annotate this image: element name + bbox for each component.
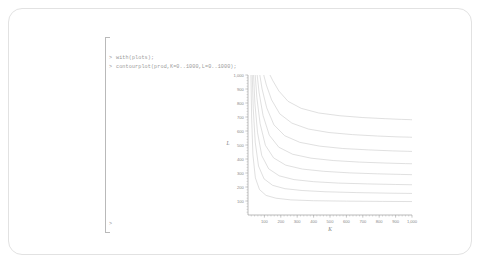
x-tick-label: 400 — [310, 219, 318, 224]
contour-plot-svg: 1002003004005006007008009001,00010020030… — [222, 69, 418, 241]
command-text-1: with(plots); — [116, 55, 154, 61]
x-axis-label: K — [327, 226, 332, 232]
command-text-2: contourplot(prod,K=0..1000,L=0..1000); — [116, 64, 237, 70]
worksheet-page: >with(plots); >contourplot(prod,K=0..100… — [8, 8, 472, 255]
y-tick-label: 800 — [237, 101, 245, 106]
x-tick-label: 900 — [392, 219, 400, 224]
contour-curve — [260, 75, 412, 151]
input-line-3[interactable]: > — [109, 221, 116, 228]
y-tick-label: 300 — [237, 171, 245, 176]
contour-curve — [255, 75, 412, 175]
y-axis-label: L — [226, 140, 230, 146]
execution-group[interactable]: >with(plots); >contourplot(prod,K=0..100… — [97, 31, 427, 243]
x-tick-label: 200 — [277, 219, 285, 224]
x-tick-label: 700 — [359, 219, 367, 224]
y-tick-label: 500 — [237, 143, 245, 148]
x-tick-label: 600 — [343, 219, 351, 224]
y-tick-label: 1,000 — [234, 73, 245, 78]
contour-curves — [251, 75, 412, 202]
prompt-marker-1: > — [109, 55, 116, 62]
x-tick-label: 500 — [327, 219, 335, 224]
prompt-marker-3: > — [109, 221, 116, 228]
contour-plot-output: 1002003004005006007008009001,00010020030… — [222, 69, 418, 241]
execution-group-bracket-top — [105, 37, 110, 38]
x-tick-label: 300 — [294, 219, 302, 224]
y-tick-label: 200 — [237, 185, 245, 190]
y-tick-label: 700 — [237, 115, 245, 120]
y-tick-label: 600 — [237, 129, 245, 134]
y-tick-label: 100 — [237, 199, 245, 204]
contour-curve — [264, 75, 412, 137]
x-tick-label: 1,000 — [407, 219, 418, 224]
contour-curve — [270, 75, 412, 120]
contour-curve — [257, 75, 412, 164]
x-tick-label: 800 — [376, 219, 384, 224]
x-tick-label: 100 — [261, 219, 269, 224]
input-line-2[interactable]: >contourplot(prod,K=0..1000,L=0..1000); — [109, 64, 237, 71]
contour-curve — [252, 75, 412, 193]
y-tick-label: 900 — [237, 87, 245, 92]
contour-curve — [254, 75, 412, 185]
prompt-marker-2: > — [109, 64, 116, 71]
execution-group-bracket-bottom — [105, 232, 110, 233]
execution-group-bar — [105, 37, 106, 233]
y-tick-label: 400 — [237, 157, 245, 162]
input-line-1[interactable]: >with(plots); — [109, 55, 154, 62]
